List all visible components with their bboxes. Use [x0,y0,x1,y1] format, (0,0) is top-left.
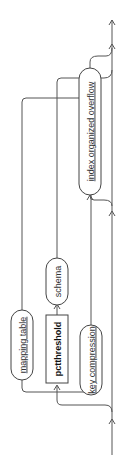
mapping-table-label: mapping table [18,317,28,374]
key-compression-label: key compression [87,326,97,394]
railroad-diagram: index organized overflow schema mapping … [0,0,127,463]
index-organized-overflow-label: index organized overflow [86,81,96,181]
branch-line [90,196,112,206]
pctthreshold-label: pctthreshold [53,322,63,377]
schema-label: schema [53,266,63,298]
rejoin-line [90,48,112,68]
